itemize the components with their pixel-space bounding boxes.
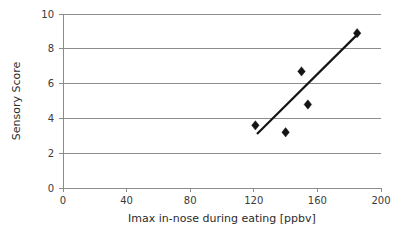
y-tick-label-2: 2: [48, 148, 54, 159]
x-axis-title: Imax in-nose during eating [ppbv]: [128, 212, 316, 225]
x-tick-label-160: 160: [308, 195, 327, 206]
y-tick-label-10: 10: [41, 9, 54, 20]
y-tick-label-0: 0: [48, 183, 54, 194]
y-tick-label-4: 4: [48, 113, 54, 124]
scatter-chart-figure: 10 8 6 4 2 0 0 40 80 120 160 200 Imax in…: [0, 0, 406, 234]
x-tick-label-120: 120: [244, 195, 263, 206]
x-tick-label-40: 40: [120, 195, 133, 206]
chart-canvas: 10 8 6 4 2 0 0 40 80 120 160 200 Imax in…: [0, 0, 406, 234]
x-tick-label-80: 80: [184, 195, 197, 206]
x-tick-label-200: 200: [371, 195, 390, 206]
y-tick-label-8: 8: [48, 43, 54, 54]
y-axis-title: Sensory Score: [10, 62, 23, 141]
y-tick-label-6: 6: [48, 78, 54, 89]
x-tick-label-0: 0: [60, 195, 66, 206]
